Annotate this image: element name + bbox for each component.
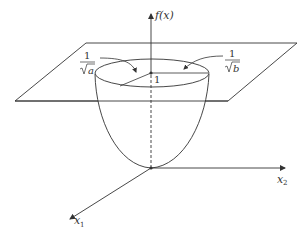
one-label: 1 xyxy=(154,74,160,85)
frac-b-denominator: b xyxy=(233,63,239,74)
x1-axis-subscript: 1 xyxy=(80,221,84,229)
origin-point xyxy=(149,166,152,169)
x1-axis xyxy=(70,168,151,219)
paraboloid-diagram: f(x) 1 1 a 1 b x 2 x 1 xyxy=(0,0,307,247)
x2-axis-subscript: 2 xyxy=(283,179,287,187)
f-axis-label: f(x) xyxy=(154,9,174,22)
frac-a-denominator: a xyxy=(88,65,94,76)
paraboloid-surface xyxy=(95,74,209,168)
center-point xyxy=(149,71,152,74)
frac-b-numerator: 1 xyxy=(229,48,235,59)
frac-a-numerator: 1 xyxy=(84,50,90,61)
diagram-canvas: f(x) 1 1 a 1 b x 2 x 1 xyxy=(0,0,307,247)
